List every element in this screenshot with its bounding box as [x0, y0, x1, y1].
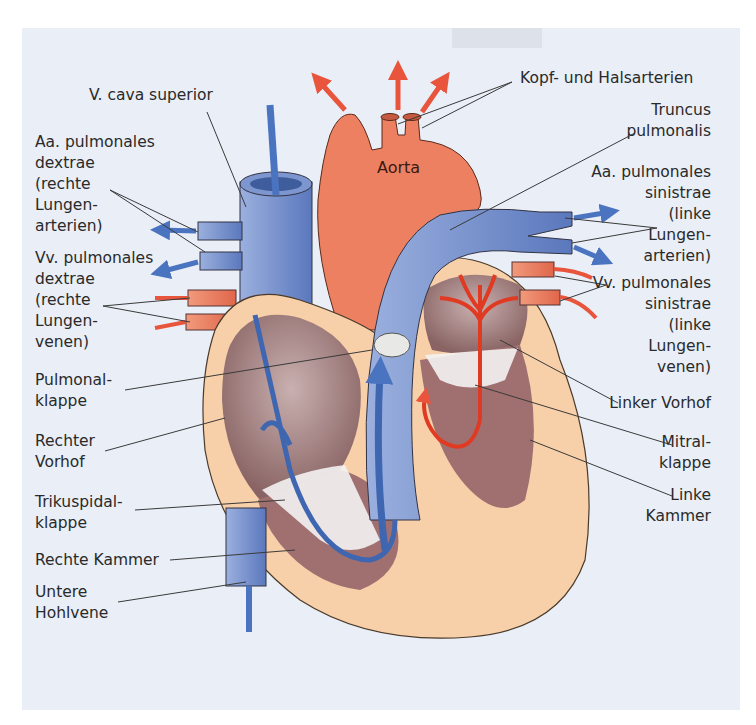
vena-cava-inferior	[226, 508, 266, 632]
label-linker-vorhof: Linker Vorhof	[609, 393, 711, 414]
arterial-flow-arrows	[318, 70, 444, 112]
label-v-cava-superior: V. cava superior	[89, 85, 213, 106]
label-untere-hohlvene: Untere Hohlvene	[35, 582, 108, 624]
label-aorta: Aorta	[377, 158, 420, 177]
label-aa-pulmonales-dextrae: Aa. pulmonales dextrae (rechte Lungen- a…	[35, 132, 155, 237]
label-aa-pulmonales-sinistrae: Aa. pulmonales sinistrae (linke Lungen- …	[591, 162, 711, 267]
label-truncus-pulmonalis: Truncus pulmonalis	[626, 100, 711, 142]
label-mitralklappe: Mitral- klappe	[659, 432, 711, 474]
right-pulmonary-arteries	[160, 222, 242, 272]
label-kopf-halsarterien: Kopf- und Halsarterien	[520, 68, 693, 89]
label-vv-pulmonales-sinistrae: Vv. pulmonales sinistrae (linke Lungen- …	[593, 273, 711, 378]
label-linke-kammer: Linke Kammer	[646, 485, 712, 527]
label-pulmonalklappe: Pulmonal- klappe	[35, 370, 112, 412]
label-rechter-vorhof: Rechter Vorhof	[35, 431, 95, 473]
label-rechte-kammer: Rechte Kammer	[35, 550, 159, 571]
label-vv-pulmonales-dextrae: Vv. pulmonales dextrae (rechte Lungen- v…	[35, 248, 153, 353]
label-trikuspidalklappe: Trikuspidal- klappe	[35, 492, 123, 534]
